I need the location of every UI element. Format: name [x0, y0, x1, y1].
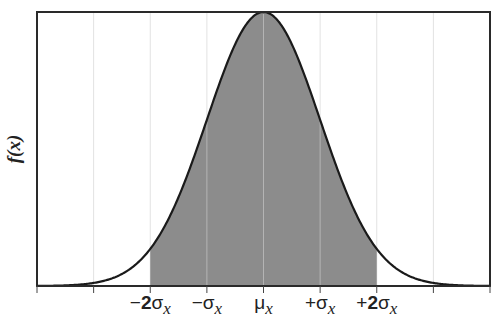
tick-label-sign: −: [192, 292, 203, 313]
tick-label-sign: −: [130, 292, 141, 313]
tick-label-sign: +: [305, 292, 316, 313]
tick-label-sub: x: [390, 299, 398, 318]
tick-label-sym: μ: [254, 292, 265, 313]
tick-label-sym: σ: [378, 292, 390, 313]
tick-label-sub: x: [328, 299, 336, 318]
tick-label-sym: σ: [151, 292, 163, 313]
tick-label: +σx: [305, 292, 335, 314]
tick-label: −σx: [192, 292, 222, 314]
tick-label-num: 2: [367, 292, 378, 313]
tick-label-num: 2: [141, 292, 152, 313]
tick-label: −2σx: [130, 292, 171, 314]
y-axis-label: f(x): [3, 135, 25, 163]
normal-distribution-chart: [0, 0, 504, 329]
tick-label-sym: σ: [316, 292, 328, 313]
tick-label: +2σx: [356, 292, 397, 314]
tick-label-sub: x: [265, 299, 273, 318]
tick-label-sign: +: [356, 292, 367, 313]
tick-label-sub: x: [215, 299, 223, 318]
tick-label: μx: [254, 292, 273, 314]
tick-label-sub: x: [163, 299, 171, 318]
tick-label-sym: σ: [203, 292, 215, 313]
